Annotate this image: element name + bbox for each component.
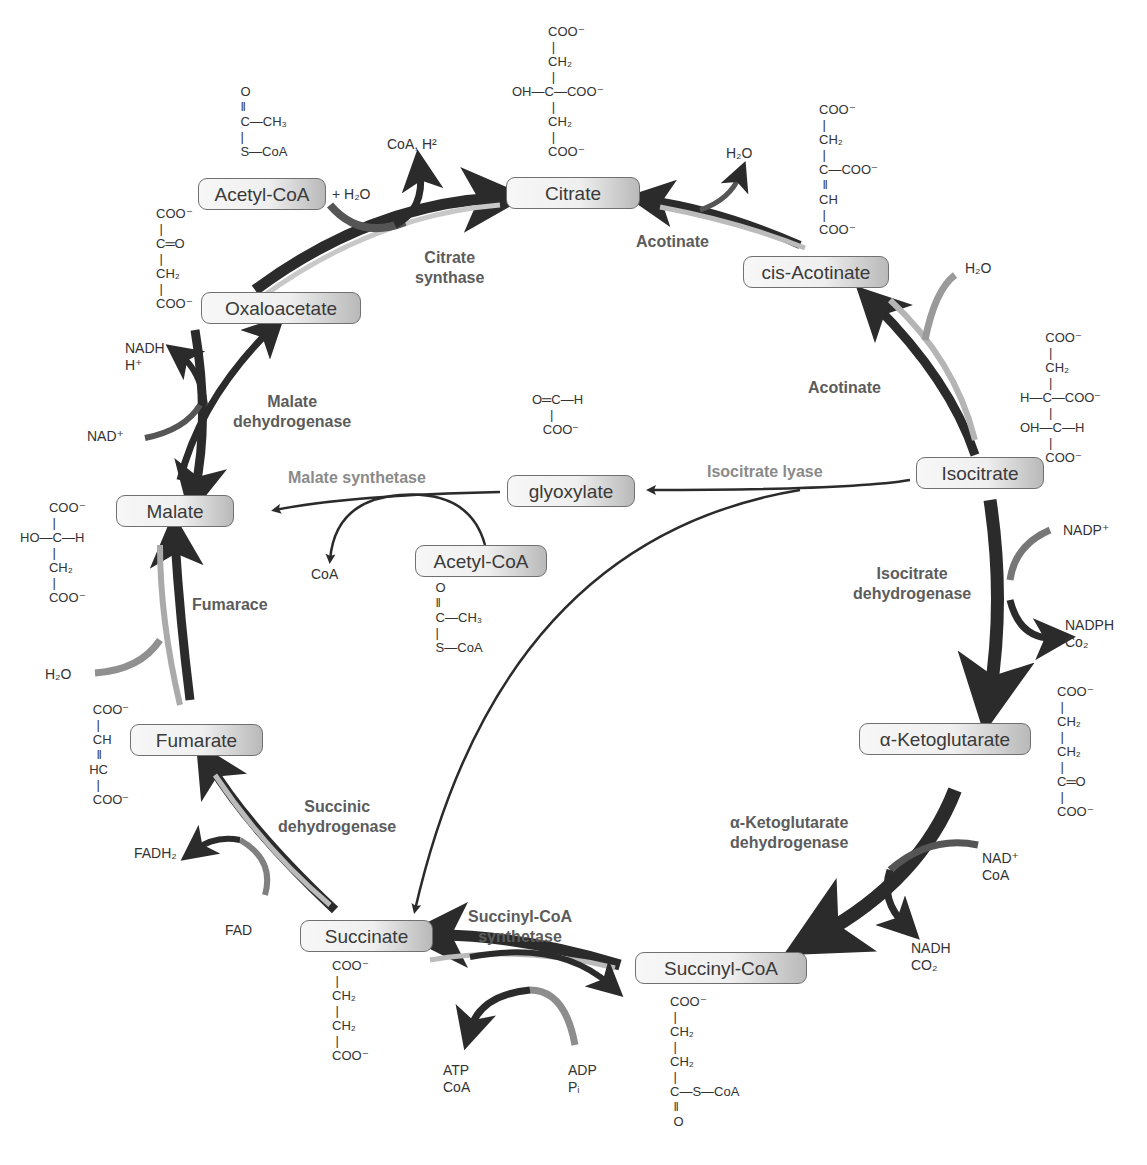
cofactor-co2-akg: CO₂: [911, 957, 937, 974]
cofactor-nad-akg: NAD⁺: [982, 850, 1019, 867]
metabolite-malate[interactable]: Malate: [116, 495, 234, 527]
structure-row: |: [819, 147, 878, 162]
structure-row: C═O: [1057, 774, 1094, 789]
metabolite-succinyl-coa[interactable]: Succinyl-CoA: [635, 952, 807, 984]
structure-row: |: [82, 777, 129, 792]
cofactor-adp: ADP: [568, 1062, 597, 1079]
structure-row: CH₂: [512, 54, 604, 69]
metabolite-oxaloacetate[interactable]: Oxaloacetate: [201, 292, 361, 324]
structure-row: |: [819, 117, 878, 132]
metabolite-succinate[interactable]: Succinate: [300, 920, 433, 952]
metabolite-fumarate[interactable]: Fumarate: [130, 724, 263, 756]
structure-row: CH₂: [1020, 360, 1101, 375]
structure-row: OH—C—H: [1020, 420, 1101, 435]
krebs-cycle-diagram: Acetyl-CoA Citrate cis-Acotinate Isocitr…: [0, 0, 1147, 1165]
metabolite-acetyl-coa-shunt[interactable]: Acetyl-CoA: [415, 545, 547, 577]
structure-row: CH₂: [670, 1054, 739, 1069]
structure-row: |: [512, 39, 604, 54]
structure-row: |: [512, 69, 604, 84]
structure-row: OH—C—COO⁻: [512, 84, 604, 99]
structure-row: |: [332, 1003, 369, 1018]
enzyme-isocitrate-lyase: Isocitrate lyase: [707, 462, 823, 482]
structure-row: COO⁻: [1057, 804, 1094, 819]
structure-row: CH₂: [332, 1018, 369, 1033]
enzyme-line: Malate: [233, 392, 351, 412]
cofactor-co2-idh: Co₂: [1065, 634, 1088, 651]
metabolite-cis-acotinate[interactable]: cis-Acotinate: [743, 256, 889, 288]
cofactor-coa-scs: CoA: [443, 1079, 470, 1096]
cofactor-fad: FAD: [225, 922, 252, 939]
enzyme-line: Succinyl-CoA: [468, 907, 572, 927]
structure-row: CH₂: [512, 114, 604, 129]
structure-row: |: [1057, 789, 1094, 804]
structure-citrate: COO⁻ | CH₂ | OH—C—COO⁻ | CH₂ | COO⁻: [512, 24, 604, 159]
arrow-akg-dh: [820, 790, 955, 935]
structure-acetyl-coa: O ‖ C—CH₃ | S—CoA: [226, 84, 287, 159]
cofactor-h2o-isocitrate: H₂O: [965, 260, 991, 277]
structure-row: CH₂: [819, 132, 878, 147]
enzyme-malate-synthetase: Malate synthetase: [288, 468, 426, 488]
enzyme-line: dehydrogenase: [730, 833, 848, 853]
structure-row: S—CoA: [432, 640, 483, 655]
structure-row: |: [1020, 405, 1101, 420]
arrow-malate-synthetase: [275, 492, 500, 510]
metabolite-citrate[interactable]: Citrate: [506, 177, 640, 209]
structure-row: COO⁻: [20, 590, 86, 605]
cofactor-coa-malate-synthetase: CoA: [311, 566, 338, 583]
enzyme-succinic-dehydrogenase: Succinic dehydrogenase: [278, 797, 396, 837]
structure-cis-acotinate: COO⁻ | CH₂ | C—COO⁻ ‖ CH | COO⁻: [819, 102, 878, 237]
structure-row: |: [512, 99, 604, 114]
structure-row: CH₂: [332, 988, 369, 1003]
structure-row: |: [532, 407, 583, 422]
enzyme-line: dehydrogenase: [233, 412, 351, 432]
structure-row: C—COO⁻: [819, 162, 878, 177]
structure-malate: COO⁻ | HO—C—H | CH₂ | COO⁻: [20, 500, 86, 605]
structure-row: CH₂: [1057, 744, 1094, 759]
metabolite-glyoxylate[interactable]: glyoxylate: [507, 475, 635, 507]
cofactor-atp: ATP: [443, 1062, 469, 1079]
structure-row: CH₂: [20, 560, 86, 575]
structure-isocitrate: COO⁻ | CH₂ | H—C—COO⁻ | OH—C—H | COO⁻: [1020, 330, 1101, 465]
arrow-fumarase: [175, 540, 190, 700]
enzyme-line: Isocitrate: [853, 564, 971, 584]
structure-row: C—CH₃: [226, 114, 287, 129]
structure-row: ‖: [82, 747, 129, 762]
structure-row: C—CH₃: [432, 610, 483, 625]
enzyme-line: Citrate: [415, 248, 484, 268]
structure-row: COO⁻: [670, 994, 739, 1009]
cofactor-nadh-akg: NADH: [911, 940, 951, 957]
structure-row: O: [670, 1114, 739, 1129]
structure-row: |: [20, 575, 86, 590]
structure-row: |: [670, 1009, 739, 1024]
structure-oxaloacetate: COO⁻ | C═O | CH₂ | COO⁻: [156, 206, 193, 311]
structure-row: |: [156, 221, 193, 236]
structure-succinyl-coa: COO⁻ | CH₂ | CH₂ | C—S—CoA ‖ O: [670, 994, 739, 1129]
structure-row: CH₂: [1057, 714, 1094, 729]
cofactor-pi: Pᵢ: [568, 1079, 580, 1096]
structure-row: HO—C—H: [20, 530, 86, 545]
enzyme-line: synthase: [415, 268, 484, 288]
structure-row: |: [1057, 759, 1094, 774]
metabolite-acetyl-coa[interactable]: Acetyl-CoA: [198, 178, 326, 210]
structure-row: |: [20, 515, 86, 530]
structure-row: O═C—H: [532, 392, 583, 407]
metabolite-alpha-ketoglutarate[interactable]: α-Ketoglutarate: [859, 723, 1031, 755]
structure-row: |: [819, 207, 878, 222]
enzyme-aconitase-2: Acotinate: [808, 378, 881, 398]
enzyme-line: synthetase: [468, 927, 572, 947]
enzyme-aconitase-1: Acotinate: [636, 232, 709, 252]
structure-row: |: [332, 973, 369, 988]
cofactor-h2o-citrate: H₂O: [726, 145, 752, 162]
structure-row: COO⁻: [819, 102, 878, 117]
structure-row: CH₂: [156, 266, 193, 281]
structure-row: C═O: [156, 236, 193, 251]
structure-row: COO⁻: [82, 792, 129, 807]
structure-row: |: [1057, 699, 1094, 714]
structure-row: COO⁻: [332, 1048, 369, 1063]
structure-row: COO⁻: [156, 296, 193, 311]
structure-row: |: [670, 1069, 739, 1084]
structure-fumarate: COO⁻ | CH ‖ HC | COO⁻: [82, 702, 129, 807]
structure-row: |: [670, 1039, 739, 1054]
structure-row: COO⁻: [332, 958, 369, 973]
structure-row: CH: [819, 192, 878, 207]
